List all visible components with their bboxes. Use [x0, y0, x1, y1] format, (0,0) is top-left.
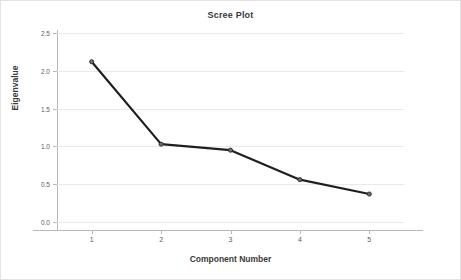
y-tick-label: 1.5 — [26, 105, 50, 112]
y-tick-label: 0.0 — [26, 219, 50, 226]
data-point-marker — [228, 148, 232, 152]
plot-area — [57, 33, 404, 222]
x-axis-title: Component Number — [0, 254, 461, 264]
x-tick-mark — [369, 230, 370, 234]
x-tick-mark — [300, 230, 301, 234]
y-tick-label: 1.0 — [26, 143, 50, 150]
chart-title: Scree Plot — [0, 10, 461, 20]
gridline — [57, 222, 404, 223]
x-tick-label: 5 — [359, 236, 379, 243]
x-tick-mark — [231, 230, 232, 234]
data-point-marker — [159, 142, 163, 146]
x-tick-label: 1 — [82, 236, 102, 243]
y-tick-label: 2.5 — [26, 30, 50, 37]
x-tick-mark — [92, 230, 93, 234]
scree-plot-screenshot: Scree Plot Eigenvalue 0.00.51.01.52.02.5… — [0, 0, 461, 280]
series-line — [92, 62, 370, 194]
data-point-marker — [298, 178, 302, 182]
x-tick-label: 4 — [290, 236, 310, 243]
y-tick-label: 2.0 — [26, 67, 50, 74]
eigenvalue-series — [57, 33, 404, 222]
series-markers — [90, 60, 372, 197]
y-tick-label: 0.5 — [26, 181, 50, 188]
data-point-marker — [90, 60, 94, 64]
y-axis-title: Eigenvalue — [10, 48, 20, 128]
x-tick-mark — [161, 230, 162, 234]
x-tick-label: 2 — [151, 236, 171, 243]
x-tick-label: 3 — [221, 236, 241, 243]
data-point-marker — [367, 192, 371, 196]
